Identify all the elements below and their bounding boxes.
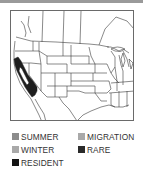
map-lines — [11, 11, 134, 121]
legend-label: MIGRATION — [87, 132, 134, 142]
legend-label: SUMMER — [21, 132, 58, 142]
winter-swatch-icon — [12, 146, 19, 153]
migration-swatch-icon — [78, 133, 85, 140]
legend-item-winter: WINTER — [12, 145, 54, 154]
legend-item-summer: SUMMER — [12, 132, 58, 141]
legend-item-resident: RESIDENT — [12, 158, 64, 167]
top-bar — [0, 0, 143, 3]
resident-swatch-icon — [12, 159, 19, 166]
legend-item-rare: RARE — [78, 145, 110, 154]
legend-label: RARE — [87, 145, 110, 155]
summer-swatch-icon — [12, 133, 19, 140]
range-map — [10, 10, 134, 121]
rare-swatch-icon — [78, 146, 85, 153]
legend-label: WINTER — [21, 145, 54, 155]
legend-label: RESIDENT — [21, 158, 64, 168]
legend-item-migration: MIGRATION — [78, 132, 134, 141]
